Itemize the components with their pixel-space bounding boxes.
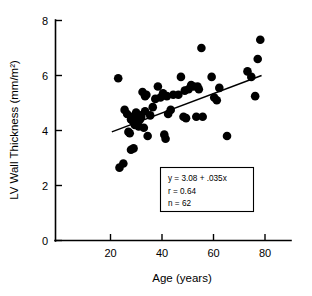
- scatter-plot: 8 6 4 2 0 20 40 60 80 Age (years) LV Wal…: [0, 0, 312, 296]
- data-point: [223, 132, 232, 141]
- y-tick-label-6: 6: [42, 70, 48, 82]
- data-point: [198, 112, 207, 121]
- data-point: [212, 96, 221, 105]
- data-point: [142, 90, 151, 99]
- data-point: [207, 73, 216, 82]
- x-tick-label-60: 60: [207, 247, 219, 259]
- data-point: [114, 74, 123, 83]
- data-point: [197, 44, 206, 53]
- data-point: [256, 35, 265, 44]
- data-point: [154, 82, 163, 91]
- chart-figure: 8 6 4 2 0 20 40 60 80 Age (years) LV Wal…: [0, 0, 312, 296]
- x-axis-title: Age (years): [152, 272, 212, 284]
- y-axis-title: LV Wall Thickness (mm/m²): [8, 60, 20, 200]
- data-point: [195, 85, 204, 94]
- y-axis-ticks: [56, 21, 63, 241]
- data-point: [119, 159, 128, 168]
- annotation-correlation: r = 0.64: [168, 187, 196, 196]
- data-points-layer: [114, 35, 265, 171]
- y-tick-label-0: 0: [42, 235, 48, 247]
- y-tick-label-2: 2: [42, 180, 48, 192]
- data-point: [140, 123, 149, 132]
- data-point: [161, 134, 170, 143]
- x-tick-label-40: 40: [156, 247, 168, 259]
- y-tick-label-8: 8: [42, 15, 48, 27]
- data-point: [148, 103, 157, 112]
- data-point: [125, 129, 134, 138]
- data-point: [253, 55, 262, 64]
- x-tick-label-20: 20: [104, 247, 116, 259]
- x-tick-label-80: 80: [259, 247, 271, 259]
- data-point: [129, 144, 138, 153]
- data-point: [251, 92, 260, 101]
- data-point: [177, 73, 186, 82]
- annotation-box: y = 3.08 + .035x r = 0.64 n = 62: [161, 168, 254, 212]
- regression-line: [112, 76, 262, 132]
- x-axis-ticks: [111, 234, 266, 241]
- data-point: [143, 132, 152, 141]
- y-tick-label-4: 4: [42, 125, 48, 137]
- annotation-equation: y = 3.08 + .035x: [168, 174, 227, 183]
- annotation-sample-size: n = 62: [168, 199, 191, 208]
- data-point: [182, 114, 191, 123]
